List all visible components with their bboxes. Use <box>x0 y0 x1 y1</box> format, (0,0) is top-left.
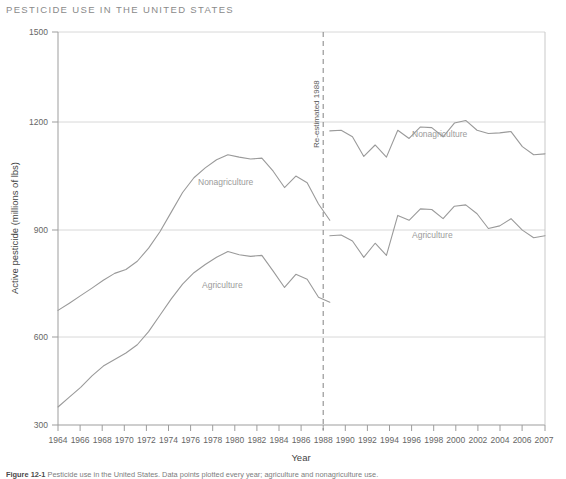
x-tick-label-1966: 1966 <box>71 435 90 445</box>
x-tick-label-1964: 1964 <box>49 435 68 445</box>
figure-caption-text: Pesticide use in the United States. Data… <box>48 470 379 479</box>
x-tick-label-2007: 2007 <box>535 435 554 445</box>
x-tick-label-1976: 1976 <box>181 435 200 445</box>
x-tick-label-1988: 1988 <box>314 435 333 445</box>
x-tick-label-1974: 1974 <box>159 435 178 445</box>
y-axis-title: Active pesticide (millions of lbs) <box>9 162 20 294</box>
x-tick-label-1984: 1984 <box>270 435 289 445</box>
plot-area-background <box>58 32 545 425</box>
series-label-agriculture-left: Agriculture <box>202 280 243 290</box>
x-axis-tick-labels: 1964 1966 1968 1970 1972 1974 1976 1978 … <box>49 435 554 445</box>
x-axis-ticks <box>58 425 545 431</box>
y-tick-label-1500: 1500 <box>29 27 48 37</box>
reestimated-1988-label: Re-estimated 1988 <box>312 80 321 148</box>
x-tick-label-1972: 1972 <box>137 435 156 445</box>
x-tick-label-1978: 1978 <box>203 435 222 445</box>
x-tick-label-2004: 2004 <box>491 435 510 445</box>
x-tick-label-1990: 1990 <box>336 435 355 445</box>
x-tick-label-1980: 1980 <box>225 435 244 445</box>
series-label-nonagriculture-right: Nonagriculture <box>412 129 468 139</box>
pesticide-use-line-chart: 1500 1200 900 600 300 <box>0 0 566 470</box>
x-tick-label-1996: 1996 <box>402 435 421 445</box>
y-tick-label-600: 600 <box>34 332 48 342</box>
y-tick-label-1200: 1200 <box>29 117 48 127</box>
x-tick-label-1994: 1994 <box>380 435 399 445</box>
series-label-nonagriculture-left: Nonagriculture <box>198 177 254 187</box>
y-axis-tick-labels: 1500 1200 900 600 300 <box>29 27 48 430</box>
x-tick-label-1970: 1970 <box>115 435 134 445</box>
figure-caption-number: Figure 12-1 <box>6 470 45 479</box>
x-tick-label-1982: 1982 <box>247 435 266 445</box>
y-axis-ticks <box>52 32 58 425</box>
x-tick-label-1992: 1992 <box>358 435 377 445</box>
x-tick-label-2002: 2002 <box>468 435 487 445</box>
x-tick-label-2006: 2006 <box>513 435 532 445</box>
x-tick-label-2000: 2000 <box>446 435 465 445</box>
figure-caption: Figure 12-1 Pesticide use in the United … <box>6 470 560 479</box>
series-label-agriculture-right: Agriculture <box>412 230 453 240</box>
x-tick-label-1998: 1998 <box>424 435 443 445</box>
y-tick-label-300: 300 <box>34 420 48 430</box>
y-tick-label-900: 900 <box>34 225 48 235</box>
x-tick-label-1986: 1986 <box>292 435 311 445</box>
x-tick-label-1968: 1968 <box>93 435 112 445</box>
x-axis-title: Year <box>291 452 310 463</box>
